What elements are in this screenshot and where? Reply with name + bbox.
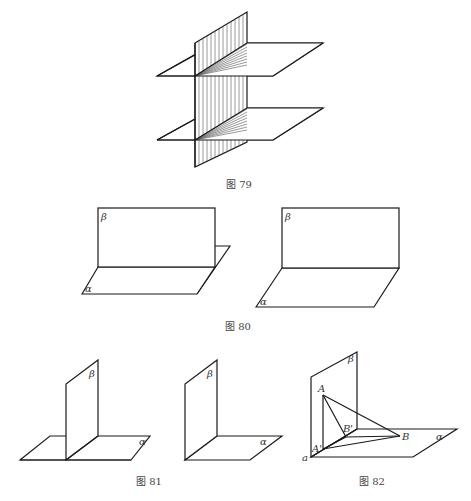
vertical-plane: [195, 12, 247, 167]
figure-81-left: β α: [20, 360, 150, 460]
label-point-B-prime: B': [342, 423, 353, 434]
label-line-a: a: [302, 452, 308, 463]
label-alpha: α: [139, 436, 146, 447]
figure-79: [157, 12, 323, 167]
label-beta: β: [347, 353, 354, 364]
figures-canvas: β α β α β α β α β: [0, 0, 471, 501]
label-alpha: α: [260, 296, 267, 307]
label-alpha: α: [85, 283, 92, 294]
figure-82: β α a A A' B' B: [302, 352, 457, 463]
figure-80-left: β α: [82, 208, 230, 294]
label-beta: β: [284, 211, 291, 222]
label-point-A-prime: A': [311, 443, 322, 454]
label-alpha: α: [436, 431, 443, 442]
figure-81-right: β α: [185, 360, 282, 460]
caption-fig79: 图 79: [226, 176, 252, 191]
label-beta: β: [100, 211, 107, 222]
label-point-A: A: [317, 383, 325, 394]
figure-80-right: β α: [256, 208, 399, 307]
label-beta: β: [88, 368, 95, 379]
caption-fig80: 图 80: [225, 318, 251, 333]
label-alpha: α: [260, 436, 267, 447]
caption-fig82: 图 82: [359, 473, 385, 488]
label-point-B: B: [401, 431, 409, 442]
label-beta: β: [206, 368, 213, 379]
caption-fig81: 图 81: [136, 473, 162, 488]
